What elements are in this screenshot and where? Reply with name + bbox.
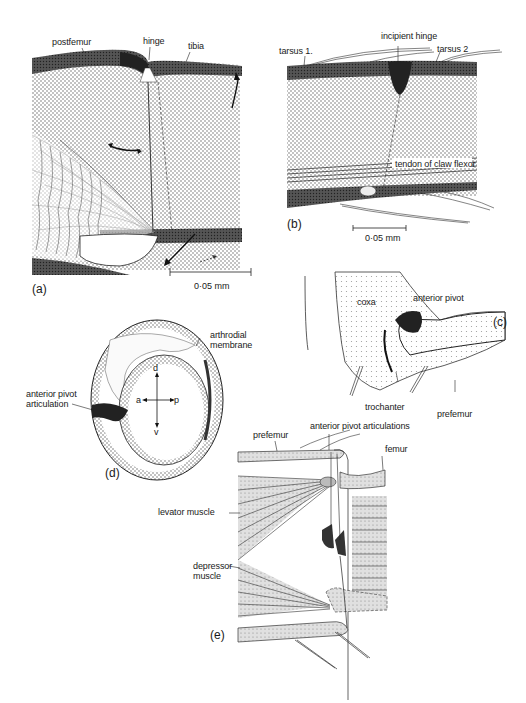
panel-label-b: (b) [287, 218, 302, 230]
label-postfemur: postfemur [52, 38, 91, 47]
panel-d-drawing [72, 320, 223, 480]
label-prefemur-c: prefemur [437, 410, 472, 419]
label-tarsus-1: tarsus 1. [279, 47, 313, 56]
label-anterior-pivot: anterior pivot [413, 294, 464, 303]
label-depressor-muscle: depressor muscle [193, 561, 232, 582]
panel-label-a: (a) [32, 283, 47, 295]
panel-c-drawing [305, 272, 505, 396]
panel-b-drawing [287, 46, 502, 231]
axis-anterior: a [136, 396, 141, 405]
panel-label-c: (c) [493, 316, 507, 328]
scale-bar-b: 0·05 mm [365, 234, 401, 243]
label-anterior-pivot-articulations: anterior pivot articulations [310, 422, 410, 431]
axis-dorsal: d [153, 364, 158, 373]
panel-label-d: (d) [105, 467, 120, 479]
label-tibia: tibia [188, 42, 204, 51]
label-coxa: coxa [357, 298, 376, 307]
label-tarsus-2: tarsus 2 [437, 45, 468, 54]
label-levator-muscle: levator muscle [158, 508, 215, 517]
label-prefemur-e: prefemur [253, 431, 288, 440]
label-trochanter: trochanter [365, 403, 405, 412]
scale-bar-a: 0·05 mm [194, 282, 230, 291]
label-hinge: hinge [143, 37, 165, 46]
panel-a-drawing [32, 47, 251, 276]
label-femur: femur [385, 445, 408, 454]
label-arthrodial-membrane: arthrodial membrane [210, 330, 252, 351]
axis-ventral: v [154, 428, 158, 437]
axis-posterior: p [174, 396, 179, 405]
label-tendon-of-claw-flexor: tendon of claw flexor [395, 160, 475, 169]
label-anterior-pivot-articulation: anterior pivot articulation [26, 389, 77, 410]
label-incipient-hinge: incipient hinge [381, 32, 437, 41]
figure-drawing [0, 0, 526, 703]
panel-e-drawing [229, 430, 387, 700]
panel-label-e: (e) [210, 629, 225, 641]
